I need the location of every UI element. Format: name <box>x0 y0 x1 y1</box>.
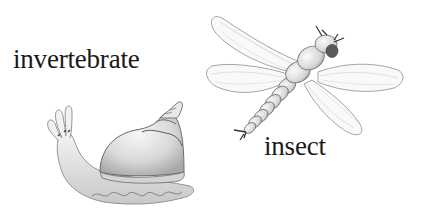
dragonfly-illustration <box>207 17 403 140</box>
dragonfly-wing-upper-right <box>318 64 403 91</box>
label-invertebrate: invertebrate <box>13 44 140 75</box>
dragonfly-tail <box>234 130 246 140</box>
snail-tentacle-right <box>65 106 72 138</box>
label-insect: insect <box>264 131 326 162</box>
dragonfly-eye <box>326 45 338 58</box>
snail-illustration <box>48 102 194 204</box>
snail-shell <box>100 113 184 176</box>
dragonfly-wing-lower-left <box>207 64 288 92</box>
snail-shell-spire <box>160 102 183 118</box>
illustration-canvas <box>0 0 426 224</box>
